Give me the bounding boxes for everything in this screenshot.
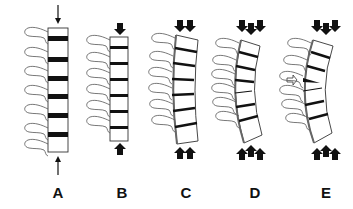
panel-label-e: E	[316, 184, 336, 201]
panel-b	[87, 23, 128, 155]
panel-label-c: C	[176, 184, 196, 201]
arrow-up-icon	[114, 143, 126, 155]
panel-label-b: B	[112, 184, 132, 201]
panel-label-d: D	[245, 184, 265, 201]
arrow-down-icon	[320, 23, 332, 35]
arrow-down-icon	[236, 20, 248, 32]
arrow-down-icon	[114, 23, 126, 35]
arrow-up-icon	[184, 147, 196, 159]
panel-e	[280, 20, 341, 160]
arrow-down-icon	[184, 20, 196, 32]
panel-label-a: A	[48, 184, 68, 201]
arrow-up-icon	[245, 145, 257, 157]
open-arrow-icon	[287, 75, 297, 85]
spine-compression-diagram	[0, 0, 353, 209]
arrow-up-icon	[320, 145, 332, 157]
arrow-down-icon	[254, 20, 266, 32]
panel-c	[149, 20, 198, 159]
panel-d	[212, 20, 266, 160]
panel-a	[25, 5, 68, 175]
arrow-down-icon	[245, 23, 257, 35]
